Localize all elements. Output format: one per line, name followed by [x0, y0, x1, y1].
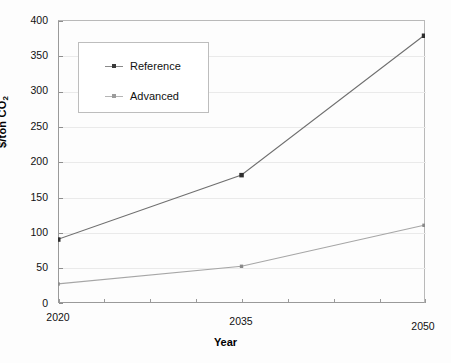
y-tick-label-50: 50 [8, 262, 48, 272]
y-tick-label-400: 400 [8, 15, 48, 25]
y-tick-label-100: 100 [8, 227, 48, 237]
y-axis-title: $/ton CO2 [0, 28, 8, 148]
x-tick-label-2050: 2050 [393, 321, 451, 332]
series-point-advanced-2035 [240, 265, 243, 268]
series-point-advanced-2020 [58, 282, 60, 285]
y-tick-label-250: 250 [8, 121, 48, 131]
y-axis-title-subscript: 2 [1, 96, 10, 101]
legend-item-advanced[interactable]: Advanced [105, 90, 179, 102]
legend-marker-reference-icon [105, 62, 123, 71]
x-tick-mark-2050 [425, 299, 426, 303]
legend-marker-advanced-icon [105, 92, 123, 101]
series-line-advanced [58, 225, 424, 284]
y-tick-label-350: 350 [8, 50, 48, 60]
x-axis-title: Year [0, 336, 451, 348]
x-tick-label-2035: 2035 [211, 316, 271, 327]
chart-figure: $/ton CO2 400 350 300 250 200 150 100 50… [0, 0, 451, 363]
y-tick-label-150: 150 [8, 192, 48, 202]
y-tick-label-300: 300 [8, 85, 48, 95]
legend-label-advanced: Advanced [130, 90, 179, 102]
x-tick-label-2020: 2020 [28, 312, 88, 323]
series-point-reference-2050 [422, 34, 425, 39]
legend-item-reference[interactable]: Reference [105, 60, 181, 72]
y-axis-title-text: $/ton CO [0, 101, 8, 148]
y-tick-label-200: 200 [8, 156, 48, 166]
y-tick-mark-0 [59, 303, 63, 304]
y-tick-label-0: 0 [8, 298, 48, 308]
legend-label-reference: Reference [130, 60, 181, 72]
series-point-advanced-2050 [422, 224, 425, 227]
series-point-reference-2020 [58, 237, 61, 242]
chart-legend: Reference Advanced [78, 42, 209, 113]
series-point-reference-2035 [239, 173, 244, 178]
